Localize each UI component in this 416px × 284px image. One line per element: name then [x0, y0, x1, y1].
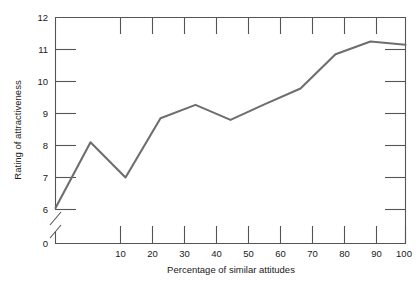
x-tick-marks-bottom — [121, 226, 406, 243]
y-tick-label-0: 0 — [43, 238, 48, 249]
y-tick-label-9: 9 — [43, 108, 48, 119]
chart-figure: 12 11 10 9 8 7 6 0 10 20 30 40 50 60 70 … — [0, 0, 416, 284]
y-tick-label-6: 6 — [43, 204, 48, 215]
line-chart: 12 11 10 9 8 7 6 0 10 20 30 40 50 60 70 … — [0, 0, 416, 284]
x-tick-labels: 10 20 30 40 50 60 70 80 90 100 — [115, 248, 412, 259]
y-tick-label-7: 7 — [43, 172, 48, 183]
x-tick-label-80: 80 — [339, 248, 350, 259]
x-tick-label-90: 90 — [371, 248, 382, 259]
x-axis-title: Percentage of similar attitudes — [167, 264, 295, 275]
x-tick-label-30: 30 — [179, 248, 190, 259]
y-tick-marks-right — [385, 50, 406, 210]
y-tick-marks-left — [55, 50, 76, 210]
x-tick-label-20: 20 — [147, 248, 158, 259]
data-series-line — [56, 42, 406, 208]
x-tick-label-50: 50 — [243, 248, 254, 259]
y-tick-labels: 12 11 10 9 8 7 6 0 — [37, 12, 48, 250]
y-tick-label-8: 8 — [43, 140, 48, 151]
x-tick-label-60: 60 — [275, 248, 286, 259]
x-tick-label-40: 40 — [211, 248, 222, 259]
x-tick-label-70: 70 — [307, 248, 318, 259]
plot-frame — [55, 17, 406, 244]
y-tick-label-12: 12 — [37, 12, 48, 23]
y-tick-label-11: 11 — [38, 44, 48, 55]
y-tick-label-10: 10 — [37, 76, 48, 87]
x-tick-label-100: 100 — [396, 248, 412, 259]
y-axis-title: Rating of attractiveness — [12, 80, 23, 180]
x-tick-marks-top — [121, 17, 377, 34]
x-tick-label-10: 10 — [115, 248, 126, 259]
